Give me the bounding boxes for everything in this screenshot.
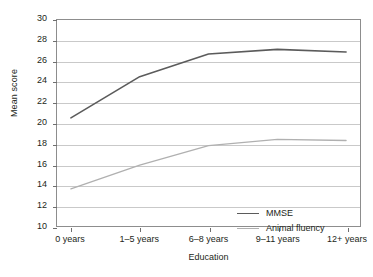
x-tick-mark (348, 228, 349, 232)
y-tick-label: 28 (23, 35, 47, 44)
series-lines (57, 20, 360, 226)
series-line-animal-fluency (71, 139, 346, 188)
x-tick-label: 0 years (35, 234, 105, 244)
y-tick-label: 12 (23, 201, 47, 210)
y-tick-label: 20 (23, 118, 47, 127)
legend-label-animal-fluency: Animal fluency (266, 224, 325, 233)
x-tick-label: 12+ years (312, 234, 373, 244)
x-tick-mark (210, 228, 211, 232)
y-axis-title: Mean score (9, 53, 19, 133)
plot-area: MMSE Animal fluency (56, 19, 361, 227)
x-tick-label: 9–11 years (243, 234, 313, 244)
legend-swatch-animal-fluency (237, 228, 259, 229)
x-tick-label: 1–5 years (104, 234, 174, 244)
x-tick-label: 6–8 years (174, 234, 244, 244)
y-tick-label: 24 (23, 76, 47, 85)
y-tick-label: 18 (23, 139, 47, 148)
y-tick-label: 16 (23, 160, 47, 169)
x-tick-mark (140, 228, 141, 232)
legend-item: MMSE (237, 206, 325, 221)
legend-swatch-mmse (237, 213, 259, 214)
chart-figure: Mean score MMSE Animal fluency 101214161… (0, 0, 373, 277)
x-axis-title: Education (56, 252, 361, 262)
series-line-mmse (71, 49, 346, 117)
y-tick-label: 14 (23, 180, 47, 189)
chart-legend: MMSE Animal fluency (237, 206, 325, 236)
x-tick-mark (71, 228, 72, 232)
y-tick-label: 30 (23, 14, 47, 23)
legend-label-mmse: MMSE (266, 209, 293, 218)
y-tick-label: 26 (23, 56, 47, 65)
y-tick-label: 22 (23, 97, 47, 106)
y-tick-label: 10 (23, 222, 47, 231)
y-tick-mark (53, 228, 57, 229)
